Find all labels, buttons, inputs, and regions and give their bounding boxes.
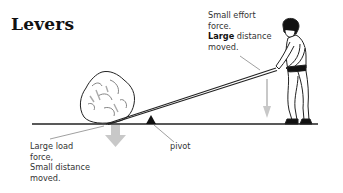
lever-illustration [0,0,343,193]
load-force-arrow-icon [105,125,126,147]
boulder-icon [80,71,134,123]
load-leader [50,126,104,139]
effort-leader [240,56,260,70]
pivot-icon [146,115,156,124]
pivot-leader [154,125,174,142]
effort-force-arrow-icon [263,79,271,118]
person-icon [276,18,312,124]
